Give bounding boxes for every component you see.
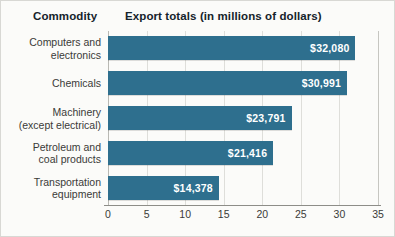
- x-tick-10: 10: [179, 208, 191, 220]
- x-axis-line: [104, 205, 381, 206]
- category-label: Machinery (except electrical): [19, 106, 101, 131]
- category-label: Computers and electronics: [29, 36, 101, 61]
- x-tick-0: 0: [105, 208, 111, 220]
- x-tick-35: 35: [372, 208, 384, 220]
- chart-container: Commodity Export totals (in millions of …: [0, 0, 395, 237]
- commodity-column-heading: Commodity: [33, 10, 97, 22]
- x-tick-20: 20: [256, 208, 268, 220]
- column-headings: Commodity Export totals (in millions of …: [1, 10, 395, 28]
- category-axis-labels: Computers and electronicsChemicalsMachin…: [1, 31, 395, 205]
- category-label: Chemicals: [52, 77, 101, 90]
- x-tick-25: 25: [295, 208, 307, 220]
- x-axis-tick-labels: 05101520253035: [108, 208, 378, 224]
- x-tick-5: 5: [144, 208, 150, 220]
- category-label: Transportation equipment: [34, 175, 101, 200]
- export-totals-heading: Export totals (in millions of dollars): [125, 10, 322, 22]
- x-tick-30: 30: [334, 208, 346, 220]
- category-label: Petroleum and coal products: [33, 140, 101, 165]
- x-tick-15: 15: [218, 208, 230, 220]
